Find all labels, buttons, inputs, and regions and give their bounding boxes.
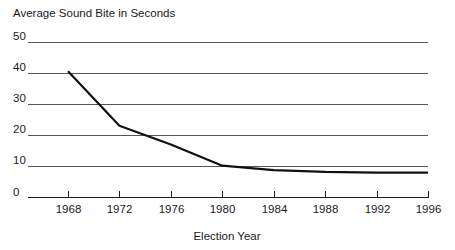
gridlines <box>28 43 428 167</box>
x-axis-tick-label: 1968 <box>56 203 82 215</box>
x-axis-tick-labels: 19681972197619801984198819921996 <box>56 203 442 215</box>
x-axis-tick-label: 1996 <box>416 203 442 215</box>
x-axis-tick-label: 1988 <box>313 203 339 215</box>
chart-figure: Average Sound Bite in Seconds 0102030405… <box>0 0 455 250</box>
y-axis-tick-labels: 01020304050 <box>13 30 26 198</box>
data-series-line <box>68 71 428 172</box>
x-axis-tick-label: 1992 <box>365 203 391 215</box>
y-axis-tick-label: 0 <box>13 186 19 198</box>
x-axis-title: Election Year <box>193 230 260 242</box>
y-axis-tick-label: 40 <box>13 61 26 73</box>
y-axis-tick-label: 10 <box>13 154 26 166</box>
line-chart: Average Sound Bite in Seconds 0102030405… <box>0 0 455 250</box>
y-axis-tick-label: 30 <box>13 92 26 104</box>
y-axis-tick-label: 50 <box>13 30 26 42</box>
x-axis-tick-label: 1980 <box>210 203 236 215</box>
x-axis-tick-label: 1984 <box>262 203 288 215</box>
x-axis-tick-label: 1976 <box>159 203 185 215</box>
chart-title: Average Sound Bite in Seconds <box>13 7 175 19</box>
x-axis-tick-label: 1972 <box>107 203 133 215</box>
y-axis-tick-label: 20 <box>13 123 26 135</box>
x-axis-tick-marks <box>69 191 429 198</box>
